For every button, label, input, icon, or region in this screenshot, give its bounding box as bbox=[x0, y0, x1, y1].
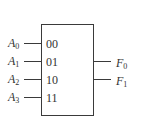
output-label-sub: 1 bbox=[123, 80, 127, 89]
input-label-sub: 1 bbox=[15, 60, 19, 69]
input-label-a2: A2 bbox=[8, 73, 19, 89]
input-label-sub: 2 bbox=[15, 78, 19, 87]
input-line-a1 bbox=[24, 61, 41, 62]
input-code-01: 01 bbox=[46, 56, 58, 68]
input-code-00: 00 bbox=[46, 38, 58, 50]
input-code-11: 11 bbox=[46, 92, 58, 104]
input-label-sub: 3 bbox=[15, 96, 19, 105]
output-label-f1: F1 bbox=[116, 75, 127, 91]
output-label-sub: 0 bbox=[123, 62, 127, 71]
input-line-a2 bbox=[24, 79, 41, 80]
input-label-a3: A3 bbox=[8, 91, 19, 107]
input-line-a3 bbox=[24, 97, 41, 98]
input-code-10: 10 bbox=[46, 74, 58, 86]
input-label-a1: A1 bbox=[8, 55, 19, 71]
input-label-sub: 0 bbox=[15, 42, 19, 51]
output-label-f0: F0 bbox=[116, 57, 127, 73]
input-label-a0: A0 bbox=[8, 37, 19, 53]
output-line-f0 bbox=[93, 61, 111, 62]
output-line-f1 bbox=[93, 79, 111, 80]
input-line-a0 bbox=[24, 43, 41, 44]
